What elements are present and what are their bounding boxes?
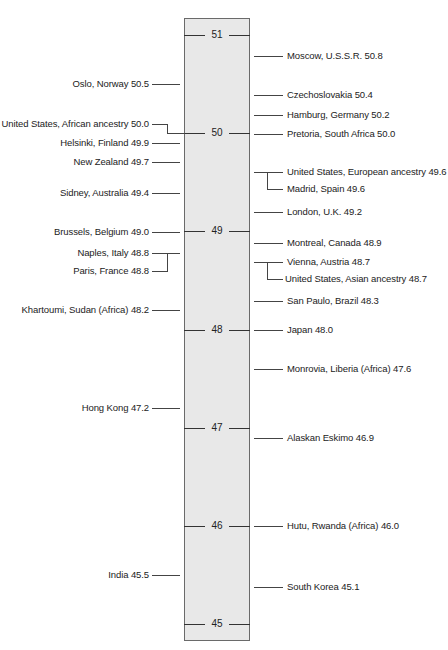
scale-chart: 51 50 49 48 47 46 45 Moscow, U.S.S.R. 50… bbox=[0, 0, 448, 650]
point-label: Brussels, Belgium 49.0 bbox=[54, 226, 149, 238]
point-label: Naples, Italy 48.8 bbox=[77, 247, 149, 259]
bracket-line bbox=[267, 172, 268, 189]
point-label: Moscow, U.S.S.R. 50.8 bbox=[287, 50, 383, 62]
point-label: Hutu, Rwanda (Africa) 46.0 bbox=[287, 520, 399, 532]
leader-line bbox=[267, 279, 283, 280]
leader-line bbox=[152, 143, 180, 144]
leader-line bbox=[254, 212, 283, 213]
leader-line bbox=[254, 56, 283, 57]
point-label: United States, European ancestry 49.6 bbox=[287, 166, 446, 178]
point-label: London, U.K. 49.2 bbox=[287, 206, 362, 218]
leader-line bbox=[254, 301, 283, 302]
point-label: Paris, France 48.8 bbox=[73, 265, 149, 277]
tick-label-45: 45 bbox=[205, 618, 229, 630]
leader-line bbox=[254, 587, 283, 588]
leader-line bbox=[152, 253, 180, 254]
tick-label-48: 48 bbox=[205, 324, 229, 336]
leader-line bbox=[152, 193, 180, 194]
leader-line bbox=[254, 438, 283, 439]
leader-line bbox=[254, 369, 283, 370]
tick-label-46: 46 bbox=[205, 520, 229, 532]
point-label: Oslo, Norway 50.5 bbox=[73, 78, 149, 90]
point-label: United States, African ancestry 50.0 bbox=[2, 118, 149, 130]
point-label: Khartoumi, Sudan (Africa) 48.2 bbox=[22, 304, 149, 316]
tick-label-50: 50 bbox=[205, 127, 229, 139]
leader-line bbox=[254, 172, 283, 173]
point-label: New Zealand 49.7 bbox=[73, 156, 149, 168]
point-label: Hamburg, Germany 50.2 bbox=[287, 109, 389, 121]
leader-line bbox=[152, 162, 180, 163]
point-label: India 45.5 bbox=[108, 569, 149, 581]
point-label: Helsinki, Finland 49.9 bbox=[60, 137, 149, 149]
leader-line bbox=[254, 330, 283, 331]
tick-label-51: 51 bbox=[205, 29, 229, 41]
bracket-line bbox=[267, 262, 268, 279]
point-label: South Korea 45.1 bbox=[287, 581, 359, 593]
leader-line bbox=[267, 189, 283, 190]
point-label: Madrid, Spain 49.6 bbox=[287, 183, 365, 195]
point-label: Monrovia, Liberia (Africa) 47.6 bbox=[287, 363, 411, 375]
leader-line bbox=[254, 526, 283, 527]
point-label: Alaskan Eskimo 46.9 bbox=[287, 432, 374, 444]
point-label: Vienna, Austria 48.7 bbox=[287, 256, 370, 268]
leader-line bbox=[152, 575, 180, 576]
leader-line bbox=[152, 408, 180, 409]
tick-label-47: 47 bbox=[205, 422, 229, 434]
point-label: Montreal, Canada 48.9 bbox=[287, 237, 382, 249]
leader-line bbox=[254, 115, 283, 116]
point-label: Czechoslovakia 50.4 bbox=[287, 89, 373, 101]
leader-line bbox=[254, 262, 283, 263]
leader-line bbox=[152, 310, 180, 311]
point-label: United States, Asian ancestry 48.7 bbox=[285, 273, 427, 285]
point-label: Sidney, Australia 49.4 bbox=[60, 187, 149, 199]
point-label: Pretoria, South Africa 50.0 bbox=[287, 128, 395, 140]
tick-label-49: 49 bbox=[205, 225, 229, 237]
point-label: Japan 48.0 bbox=[287, 324, 333, 336]
point-label: Hong Kong 47.2 bbox=[82, 402, 149, 414]
leader-line bbox=[167, 133, 185, 134]
leader-line bbox=[152, 124, 168, 125]
leader-line bbox=[152, 271, 168, 272]
leader-line bbox=[254, 243, 283, 244]
leader-line bbox=[254, 95, 283, 96]
leader-line bbox=[152, 232, 180, 233]
point-label: San Paulo, Brazil 48.3 bbox=[287, 295, 379, 307]
bracket-line bbox=[167, 253, 168, 271]
leader-line bbox=[152, 84, 180, 85]
leader-line bbox=[254, 134, 283, 135]
